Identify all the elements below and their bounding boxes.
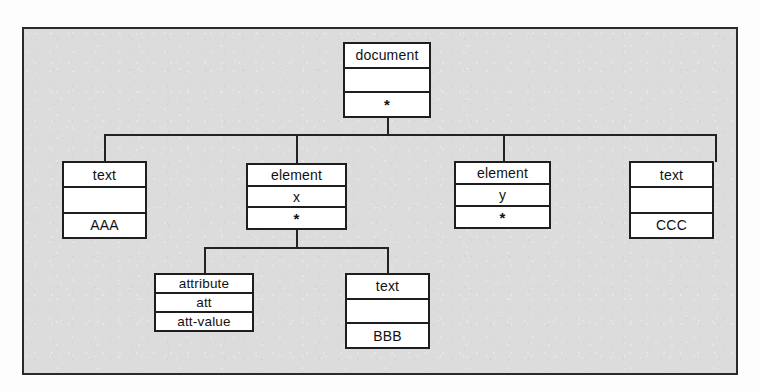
node-attribute-att-type: attribute <box>156 275 252 292</box>
edge-bus-level2 <box>204 247 389 249</box>
diagram-frame: document * text AAA element x * element … <box>22 27 738 375</box>
node-text-ccc[interactable]: text CCC <box>629 161 714 239</box>
edge-drop-element-y <box>503 134 505 162</box>
node-element-x-type: element <box>248 165 345 185</box>
edge-element-x-stub <box>296 229 298 249</box>
node-element-x[interactable]: element x * <box>246 163 347 230</box>
node-element-y-value: * <box>456 205 549 227</box>
node-element-y-name: y <box>456 183 549 205</box>
edge-drop-element-x <box>296 134 298 164</box>
node-document-name <box>345 67 429 92</box>
node-element-y-type: element <box>456 163 549 183</box>
edge-drop-text-aaa <box>104 134 106 162</box>
node-document-value: * <box>345 91 429 116</box>
edge-bus-level1 <box>104 134 717 136</box>
node-text-ccc-type: text <box>631 163 712 186</box>
node-text-aaa-value: AAA <box>64 212 145 237</box>
node-text-bbb-value: BBB <box>347 322 428 347</box>
edge-drop-text-bbb <box>387 247 389 274</box>
node-attribute-att-name: att <box>156 292 252 311</box>
edge-drop-text-ccc <box>715 134 717 162</box>
node-attribute-att[interactable]: attribute att att-value <box>154 273 254 332</box>
node-text-aaa-type: text <box>64 163 145 186</box>
node-element-x-value: * <box>248 206 345 228</box>
node-text-bbb-name <box>347 298 428 323</box>
node-text-aaa[interactable]: text AAA <box>62 161 147 239</box>
node-attribute-att-value: att-value <box>156 311 252 330</box>
node-element-y[interactable]: element y * <box>454 161 551 229</box>
node-text-ccc-name <box>631 186 712 211</box>
node-text-ccc-value: CCC <box>631 212 712 237</box>
node-text-bbb-type: text <box>347 275 428 298</box>
node-text-bbb[interactable]: text BBB <box>345 273 430 349</box>
edge-drop-attribute-att <box>204 247 206 274</box>
node-element-x-name: x <box>248 185 345 207</box>
node-document[interactable]: document * <box>343 42 431 118</box>
node-document-type: document <box>345 44 429 67</box>
node-text-aaa-name <box>64 186 145 211</box>
diagram-canvas: document * text AAA element x * element … <box>0 0 761 391</box>
